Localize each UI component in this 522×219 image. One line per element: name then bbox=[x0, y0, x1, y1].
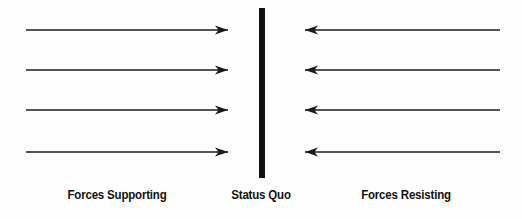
diagram-canvas bbox=[0, 0, 522, 219]
forces-supporting-label: Forces Supporting bbox=[9, 188, 224, 202]
supporting-arrows-group bbox=[26, 30, 228, 152]
resisting-arrows-group bbox=[305, 30, 500, 152]
status-quo-bar bbox=[259, 8, 265, 178]
status-quo-label: Status Quo bbox=[209, 188, 312, 202]
force-field-diagram: Forces Supporting Status Quo Forces Resi… bbox=[0, 0, 522, 219]
forces-resisting-label: Forces Resisting bbox=[308, 188, 503, 202]
